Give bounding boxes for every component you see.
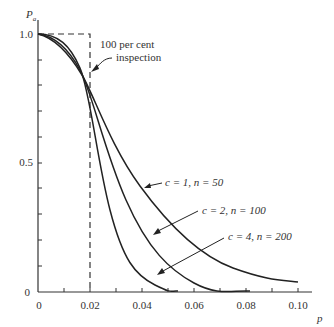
curve3-arrow — [163, 238, 224, 271]
inspection-annotation: inspection — [116, 51, 162, 63]
curve2-arrow — [158, 211, 198, 231]
curve-c1-n50 — [38, 34, 298, 282]
x-tick-label: 0.08 — [236, 299, 256, 311]
curve1-annotation: c = 1, n = 50 — [165, 176, 224, 188]
x-tick-label: 0.10 — [288, 299, 308, 311]
y-tick-label: 0 — [25, 286, 31, 298]
arrowhead-icon — [153, 228, 161, 235]
x-tick-label: 0.02 — [80, 299, 99, 311]
oc-chart: 1.0 0.5 0 0 0.02 0.04 0.06 0.08 0.10 Pa … — [0, 0, 334, 327]
arrowhead-icon — [157, 268, 165, 275]
x-tick-label: 0.04 — [132, 299, 152, 311]
y-axis-label: Pa — [25, 8, 37, 23]
x-tick-label: 0 — [36, 299, 42, 311]
arrowhead-icon — [91, 64, 99, 72]
curve-c2-n100 — [38, 34, 250, 292]
x-tick-label: 0.06 — [184, 299, 204, 311]
curve3-annotation: c = 4, n = 200 — [228, 230, 292, 242]
x-axis-label: p — [316, 312, 323, 324]
arrowhead-icon — [144, 183, 151, 188]
inspection-arrow — [96, 58, 112, 68]
y-tick-label: 0.5 — [19, 156, 33, 168]
y-tick-label: 1.0 — [19, 28, 33, 40]
curve2-annotation: c = 2, n = 100 — [202, 204, 266, 216]
inspection-annotation: 100 per cent — [100, 38, 154, 50]
